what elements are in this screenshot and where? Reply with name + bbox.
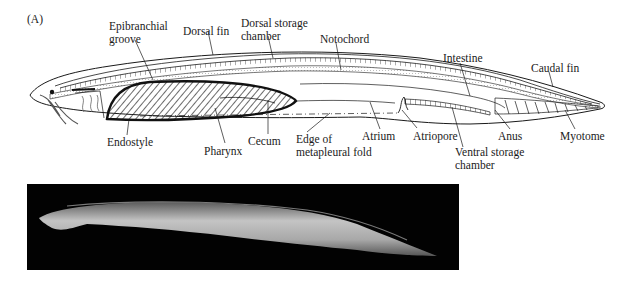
lancelet-photo (27, 184, 459, 270)
label-dorsal-storage-chamber: Dorsal storage chamber (241, 17, 308, 42)
label-anus: Anus (498, 130, 522, 143)
label-atriopore: Atriopore (413, 130, 458, 143)
label-dorsal-fin: Dorsal fin (183, 25, 229, 38)
label-notochord: Notochord (320, 33, 369, 46)
label-epibranchial-groove: Epibranchial groove (109, 20, 168, 45)
label-intestine: Intestine (443, 52, 483, 65)
lancelet-silhouette (27, 184, 459, 270)
label-metapleural-fold: Edge of metapleural fold (296, 133, 372, 158)
label-atrium: Atrium (362, 130, 395, 143)
label-cecum: Cecum (248, 135, 281, 148)
label-ventral-storage-chamber: Ventral storage chamber (455, 146, 524, 171)
label-caudal-fin: Caudal fin (531, 62, 579, 75)
label-myotome: Myotome (560, 130, 605, 143)
label-pharynx: Pharynx (204, 145, 242, 158)
label-endostyle: Endostyle (107, 136, 153, 149)
